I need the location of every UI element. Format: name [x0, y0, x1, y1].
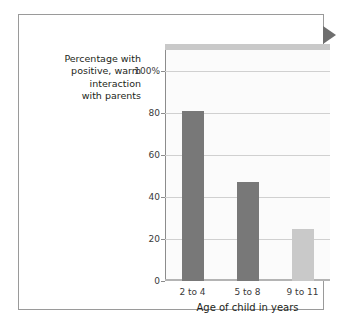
- y-tick-label: 20: [149, 234, 160, 244]
- y-tick-mark: [161, 113, 165, 114]
- y-axis-title-line-2: positive, warm: [29, 65, 141, 77]
- y-axis-title-line-1: Percentage with: [29, 53, 141, 65]
- x-axis-title: Age of child in years: [165, 302, 330, 313]
- y-axis-title: Percentage with positive, warm interacti…: [29, 53, 141, 103]
- x-tick-label: 9 to 11: [287, 287, 319, 297]
- y-axis-title-line-4: with parents: [29, 90, 141, 102]
- y-tick-mark: [161, 197, 165, 198]
- y-axis-line: [165, 50, 166, 281]
- chart-plot: 020406080100% 2 to 45 to 89 to 11: [165, 44, 330, 281]
- plot-area: 020406080100% 2 to 45 to 89 to 11: [165, 50, 330, 281]
- y-axis-title-line-3: interaction: [29, 78, 141, 90]
- y-tick-label: 40: [149, 192, 160, 202]
- y-tick-mark: [161, 239, 165, 240]
- bar-9-to-11: [292, 229, 314, 282]
- bar-5-to-8: [237, 182, 259, 281]
- y-tick-label: 60: [149, 150, 160, 160]
- y-tick-mark: [161, 71, 165, 72]
- y-tick-label: 100%: [134, 66, 160, 76]
- y-tick-label: 80: [149, 108, 160, 118]
- y-tick-mark: [161, 281, 165, 282]
- x-tick-label: 5 to 8: [234, 287, 260, 297]
- gridline: [165, 71, 330, 72]
- triangle-right-icon: [323, 26, 336, 44]
- figure-frame: Percentage with positive, warm interacti…: [18, 14, 324, 310]
- y-tick-label: 0: [154, 276, 160, 286]
- bar-2-to-4: [182, 111, 204, 281]
- x-tick-label: 2 to 4: [179, 287, 205, 297]
- y-tick-mark: [161, 155, 165, 156]
